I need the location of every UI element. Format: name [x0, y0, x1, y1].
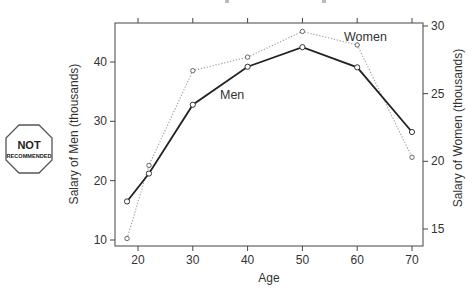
y-axis-title-men: Salary of Men (thousands) [67, 64, 81, 205]
data-point [355, 65, 360, 70]
x-axis: 203040506070 [131, 246, 419, 267]
badge-line2: RECOMMENDED [6, 153, 51, 159]
y-tick-label-men: 30 [94, 114, 108, 128]
y-tick-label-women: 25 [431, 87, 445, 101]
y-tick-label-women: 30 [431, 19, 445, 33]
series-women [125, 29, 414, 240]
y-axis-women: 15202530 [423, 19, 445, 236]
y-tick-label-women: 15 [431, 222, 445, 236]
x-tick-label: 30 [186, 253, 200, 267]
data-point [191, 68, 195, 72]
label-men: Men [220, 88, 244, 102]
label-women: Women [344, 30, 387, 44]
x-tick-label: 70 [405, 253, 419, 267]
x-tick-label: 60 [351, 253, 365, 267]
data-point [125, 236, 129, 240]
data-point [146, 171, 151, 176]
series-line [127, 31, 412, 238]
data-point [124, 199, 129, 204]
dual-axis-line-chart: NOT RECOMMENDED 203040506070 10203040 15… [0, 0, 476, 294]
y-tick-label-men: 10 [94, 233, 108, 247]
y-tick-label-women: 20 [431, 154, 445, 168]
series-men [124, 45, 414, 204]
plot-frame [115, 23, 423, 246]
x-axis-title: Age [258, 271, 280, 285]
x-top-ticks [138, 18, 412, 23]
y-axis-men: 10203040 [94, 55, 115, 247]
data-point [245, 55, 249, 59]
y-tick-label-men: 20 [94, 174, 108, 188]
badge-line1: NOT [17, 139, 41, 151]
data-point [410, 155, 414, 159]
clipped-title [225, 0, 326, 3]
y-tick-label-men: 40 [94, 55, 108, 69]
y-axis-title-women: Salary of Women (thousands) [451, 49, 465, 208]
x-tick-label: 40 [241, 253, 255, 267]
not-recommended-badge: NOT RECOMMENDED [6, 125, 52, 173]
data-point [190, 102, 195, 107]
x-tick-label: 20 [131, 253, 145, 267]
data-point [300, 45, 305, 50]
x-tick-label: 50 [296, 253, 310, 267]
data-point [245, 64, 250, 69]
data-point [409, 129, 414, 134]
data-point [147, 163, 151, 167]
data-point [300, 29, 304, 33]
